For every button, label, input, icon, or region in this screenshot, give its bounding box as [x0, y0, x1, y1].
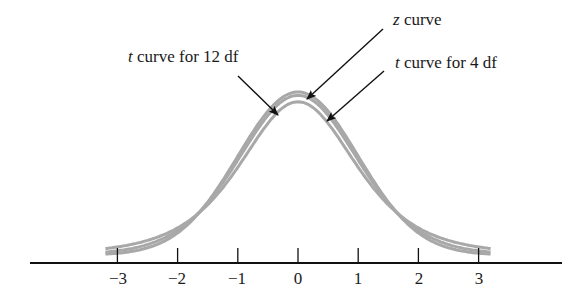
curve-t-curve-for-4-df — [105, 102, 490, 249]
tick-label: −2 — [168, 270, 186, 287]
tick-label: 2 — [415, 270, 424, 287]
arrow-z-curve — [307, 29, 383, 99]
label-z-curve: z curve — [393, 11, 442, 28]
label-t4-curve: t curve for 4 df — [395, 54, 497, 71]
x-axis-ticks — [117, 248, 478, 263]
arrow-t4-curve — [327, 71, 384, 121]
label-t12-curve: t curve for 12 df — [128, 48, 238, 65]
tick-label: 0 — [294, 270, 303, 287]
tick-label: 3 — [475, 270, 484, 287]
arrow-t12-curve — [238, 76, 278, 115]
curve-z-curve — [105, 92, 490, 254]
tick-label: −3 — [109, 270, 127, 287]
tick-label: 1 — [354, 270, 363, 287]
tick-label: −1 — [228, 270, 246, 287]
curve-t-curve-for-12-df — [105, 95, 490, 252]
density-curves — [105, 92, 490, 254]
plot-area — [0, 0, 588, 306]
